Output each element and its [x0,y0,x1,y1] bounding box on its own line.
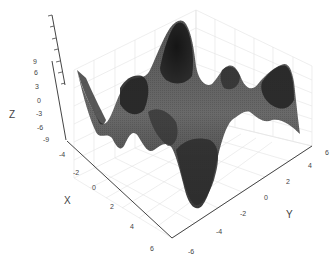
z-tick-neg3: -3 [36,110,42,117]
x-tick-0: 0 [92,184,96,191]
z-tick-neg6: -6 [37,124,43,131]
y-tick-neg4: -4 [216,228,222,235]
z-tick-neg9: -9 [43,136,49,143]
z-axis-title: Z [9,109,15,120]
surface-trough [176,138,218,204]
x-axis-title: X [64,195,71,206]
y-tick-2: 2 [286,178,290,185]
y-tick-4: 4 [308,162,312,169]
x-tick-neg4: -4 [59,151,65,158]
y-tick-6: 6 [325,149,329,156]
y-tick-neg6: -6 [188,248,194,255]
x-tick-2: 2 [110,203,114,210]
x-tick-4: 4 [130,223,134,230]
surface-plot[interactable]: 9 6 3 0 -3 -6 -9 Z -4 -2 0 2 4 6 X -6 -4… [0,0,335,266]
y-tick-neg2: -2 [240,210,246,217]
x-tick-neg2: -2 [73,169,79,176]
z-tick-0: 0 [37,97,41,104]
y-tick-0: 0 [264,194,268,201]
surface-peak-main [160,22,193,83]
z-tick-3: 3 [35,83,39,90]
x-tick-6: 6 [150,245,154,252]
z-tick-9: 9 [33,58,37,65]
z-axis: 9 6 3 0 -3 -6 -9 Z [9,12,74,143]
surface[interactable] [77,21,300,209]
z-tick-6: 6 [34,69,38,76]
y-axis-title: Y [286,209,293,220]
